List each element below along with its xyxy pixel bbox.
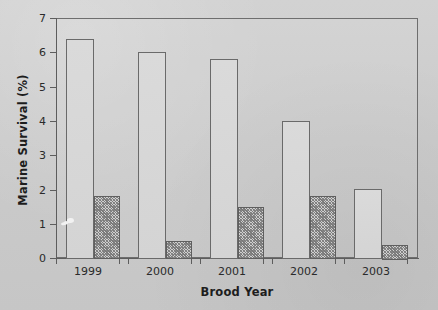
x-axis-tick-label: 2003 xyxy=(346,266,406,278)
x-axis-tick-label: 2001 xyxy=(202,266,262,278)
bar-2001-series-1 xyxy=(210,59,238,259)
y-axis-tick-label: 0 xyxy=(6,253,46,264)
y-axis-title: Marine Survival (%) xyxy=(16,40,30,240)
bar-1999-series-1 xyxy=(66,39,94,259)
y-axis-line xyxy=(56,18,57,259)
y-axis-tick xyxy=(50,155,56,156)
bar-1999-series-2 xyxy=(94,196,120,259)
bar-2000-series-1 xyxy=(138,52,166,259)
x-axis-tick xyxy=(56,258,57,264)
bar-2003-series-1 xyxy=(354,189,382,259)
x-axis-tick xyxy=(128,258,129,264)
bar-2001-series-2 xyxy=(238,207,264,259)
x-axis-tick-label: 2002 xyxy=(274,266,334,278)
y-axis-tick xyxy=(50,18,56,19)
y-axis-tick xyxy=(50,121,56,122)
x-axis-tick-label: 1999 xyxy=(58,266,118,278)
x-axis-tick xyxy=(200,258,201,264)
y-axis-tick xyxy=(50,52,56,53)
bar-2002-series-2 xyxy=(310,196,336,259)
bar-2002-series-1 xyxy=(282,121,310,259)
x-axis-title: Brood Year xyxy=(56,285,418,299)
y-axis-tick xyxy=(50,190,56,191)
bar-2000-series-2 xyxy=(166,241,192,259)
bar-2003-series-2 xyxy=(382,245,408,260)
y-axis-tick xyxy=(50,87,56,88)
x-axis-tick-label: 2000 xyxy=(130,266,190,278)
x-axis-tick xyxy=(272,258,273,264)
y-axis-tick xyxy=(50,224,56,225)
x-axis-tick xyxy=(344,258,345,264)
y-axis-tick-label: 7 xyxy=(6,13,46,24)
bar-chart-figure: 0 1 2 3 4 5 6 7 1999 2000 2001 2002 2003 xyxy=(0,0,438,310)
